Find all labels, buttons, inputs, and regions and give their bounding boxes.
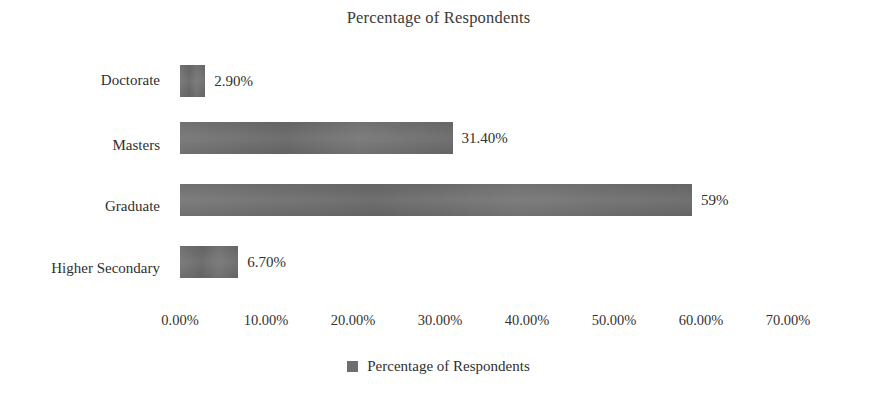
- bar-row-higher-secondary[interactable]: 6.70%: [180, 246, 286, 278]
- category-label-higher-secondary: Higher Secondary: [0, 260, 160, 277]
- bar-row-masters[interactable]: 31.40%: [180, 122, 508, 154]
- x-tick-label-0: 0.00%: [135, 312, 225, 329]
- x-tick-label-40: 40.00%: [482, 312, 572, 329]
- bar-doctorate[interactable]: [180, 65, 205, 97]
- x-tick-label-10: 10.00%: [221, 312, 311, 329]
- bar-graduate[interactable]: [180, 184, 692, 216]
- x-tick-label-70: 70.00%: [743, 312, 833, 329]
- bar-row-doctorate[interactable]: 2.90%: [180, 65, 253, 97]
- bar-chart: Percentage of Respondents Doctorate Mast…: [0, 0, 877, 413]
- category-label-masters: Masters: [0, 137, 160, 154]
- x-tick-label-30: 30.00%: [395, 312, 485, 329]
- category-label-doctorate: Doctorate: [0, 72, 160, 89]
- bar-higher-secondary[interactable]: [180, 246, 238, 278]
- bar-value-doctorate: 2.90%: [214, 73, 253, 90]
- bar-row-graduate[interactable]: 59%: [180, 184, 729, 216]
- x-tick-label-20: 20.00%: [308, 312, 398, 329]
- chart-legend: Percentage of Respondents: [0, 358, 877, 375]
- x-tick-label-60: 60.00%: [656, 312, 746, 329]
- bar-series-percentage-of-respondents: 2.90% 31.40% 59% 6.70%: [180, 58, 741, 303]
- x-tick-label-50: 50.00%: [569, 312, 659, 329]
- plot-area: 2.90% 31.40% 59% 6.70%: [180, 58, 741, 303]
- legend-swatch-icon: [347, 361, 358, 372]
- bar-masters[interactable]: [180, 122, 453, 154]
- chart-title: Percentage of Respondents: [0, 8, 877, 28]
- bar-value-masters: 31.40%: [462, 130, 508, 147]
- category-label-graduate: Graduate: [0, 198, 160, 215]
- legend-label-percentage-of-respondents: Percentage of Respondents: [367, 358, 529, 375]
- x-axis: 0.00% 10.00% 20.00% 30.00% 40.00% 50.00%…: [0, 312, 877, 336]
- bar-value-graduate: 59%: [701, 192, 729, 209]
- bar-value-higher-secondary: 6.70%: [247, 254, 286, 271]
